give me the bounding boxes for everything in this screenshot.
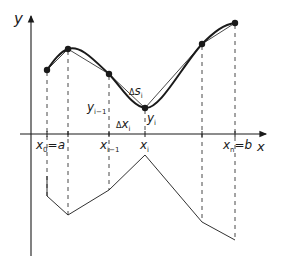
y-i-sub: i [154, 119, 156, 127]
lower-broken-line [47, 155, 235, 240]
partition-dashed-lines [47, 25, 235, 240]
tick-x0-suffix: =a [48, 138, 65, 152]
tick-label-xim1: xi−1 [100, 139, 119, 154]
delta-x-main: x [121, 117, 128, 131]
y-axis-label: y [14, 12, 23, 27]
diagram-canvas [0, 0, 281, 269]
x-axis-label: x [257, 140, 265, 153]
y-im1-label: yi−1 [87, 101, 106, 116]
tick-label-x0: x0=a [36, 139, 65, 154]
tick-xim1-sub: i−1 [107, 146, 119, 154]
tick-xn-suffix: =b [235, 138, 253, 152]
delta-s-label: Δsi [129, 85, 143, 100]
delta-x-sub: i [129, 125, 131, 133]
tick-label-xi: xi [140, 139, 149, 154]
y-i-label: yi [147, 112, 156, 127]
delta-s-sub: i [141, 92, 143, 100]
y-im1-sub: i−1 [94, 108, 106, 116]
tick-xi-sub: i [147, 146, 149, 154]
delta-x-label: Δxi [116, 118, 131, 133]
tick-label-xn: xn=b [223, 139, 252, 154]
